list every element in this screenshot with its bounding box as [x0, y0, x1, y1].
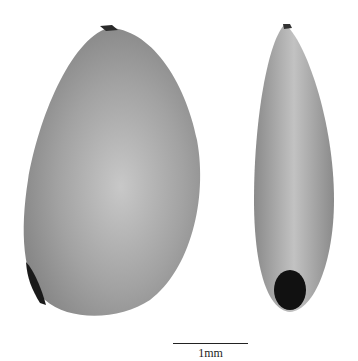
hilum: [274, 270, 306, 310]
scale-bar: [173, 343, 248, 344]
seed-edge-view: [254, 24, 334, 312]
seed-photo: [0, 0, 358, 361]
seed-lateral-view: [24, 25, 200, 316]
scale-bar-label: 1mm: [173, 346, 248, 361]
